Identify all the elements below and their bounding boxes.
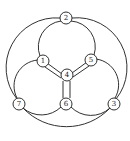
edge-5-3 (96, 59, 119, 98)
edge-5-4-a (72, 62, 87, 73)
edge-1-7 (14, 60, 38, 98)
edge-7-3 (23, 108, 110, 127)
node-2: 2 (60, 12, 72, 24)
edge-1-4-a (47, 63, 62, 74)
edge-6-3 (71, 107, 110, 115)
node-label: 1 (41, 57, 45, 65)
edge-5-4-b (73, 66, 89, 77)
node-label: 5 (89, 56, 93, 64)
node-6: 6 (60, 98, 72, 110)
node-label: 4 (65, 71, 70, 79)
edge-2-1 (38, 21, 61, 56)
node-1: 1 (37, 55, 49, 67)
node-4: 4 (61, 69, 73, 81)
node-3: 3 (108, 98, 120, 110)
node-label: 6 (64, 100, 69, 108)
edge-2-5 (71, 21, 95, 55)
node-5: 5 (85, 54, 97, 66)
node-label: 3 (112, 100, 116, 108)
edge-1-4-b (45, 67, 61, 78)
graph-diagram: 1 2 3 4 5 6 7 (0, 0, 130, 141)
node-7: 7 (13, 98, 25, 110)
node-label: 7 (17, 100, 21, 108)
node-label: 2 (64, 14, 68, 22)
